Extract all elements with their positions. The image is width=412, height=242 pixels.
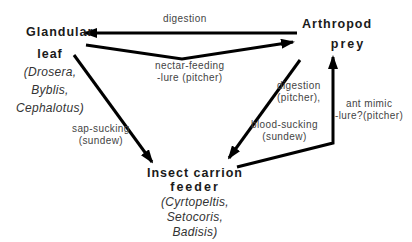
node-glandular-leaf-taxon: (Drosera, <box>10 63 90 81</box>
label-nectar-feeding-line2: -lure (pitcher) <box>155 72 225 84</box>
arrow-blood-sucking-prey-to-feeder <box>229 60 300 158</box>
label-digestion-pitcher: digestion (pitcher), <box>277 80 321 104</box>
label-sap-sucking-line1: sap-sucking <box>72 123 130 135</box>
label-ant-mimic-line1: ant mimic <box>335 98 403 110</box>
node-insect-carrion-feeder-taxon: Badisis) <box>140 223 250 241</box>
label-nectar-feeding: nectar-feeding -lure (pitcher) <box>155 60 225 84</box>
label-blood-sucking-line2: (sundew) <box>251 131 318 143</box>
label-sap-sucking-line2: (sundew) <box>72 135 130 147</box>
label-ant-mimic: ant mimic -lure?(pitcher) <box>335 98 403 122</box>
node-insect-carrion-feeder: Insect carrion feeder (Cyrtopeltis, Seto… <box>140 164 250 241</box>
node-arthropod-prey-title: Arthropod <box>298 15 398 33</box>
label-digestion-pitcher-line1: digestion <box>277 80 321 92</box>
node-glandular-leaf-taxon: Cephalotus) <box>10 99 90 117</box>
label-sap-sucking: sap-sucking (sundew) <box>72 123 130 147</box>
label-blood-sucking-line1: blood-sucking <box>251 119 318 131</box>
label-blood-sucking: blood-sucking (sundew) <box>251 119 318 143</box>
arrow-nectar-lure-leaf-to-prey <box>86 42 293 59</box>
node-glandular-leaf-title: Glandular <box>10 23 90 41</box>
label-digestion-top: digestion <box>163 13 207 25</box>
arrow-ant-mimic-feeder-to-prey <box>237 57 333 167</box>
label-digestion-pitcher-line2: (pitcher), <box>277 92 321 104</box>
label-ant-mimic-line2: -lure?(pitcher) <box>335 110 403 122</box>
node-glandular-leaf-title-line2: leaf <box>10 45 90 63</box>
node-glandular-leaf-taxon: Byblis, <box>10 81 90 99</box>
node-arthropod-prey: Arthropod prey <box>298 15 398 53</box>
label-nectar-feeding-line1: nectar-feeding <box>155 60 225 72</box>
node-arthropod-prey-title-line2: prey <box>298 35 398 53</box>
node-glandular-leaf: Glandular leaf (Drosera, Byblis, Cephalo… <box>10 23 90 117</box>
